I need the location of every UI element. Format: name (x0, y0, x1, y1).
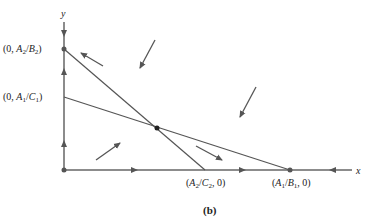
x-axis-arrow-right-icon (131, 167, 138, 173)
point-A1-B1-0 (288, 168, 293, 173)
phase-plane-diagram: y x (0, A2/B2) (0, A1/C1) (A2/C2, 0) (A1… (0, 0, 377, 222)
x-axis-arrow-right-mid-icon (239, 167, 246, 173)
origin-point (62, 168, 67, 173)
flow-arrow-lower-right (196, 146, 222, 160)
label-0-A1-C1: (0, A1/C1) (3, 91, 42, 104)
point-0-A2-B2 (62, 47, 67, 52)
label-A2-C2-0: (A2/C2, 0) (186, 177, 225, 190)
isocline-steep (64, 49, 205, 170)
figure-caption: (b) (203, 204, 217, 217)
flow-arrow-top (140, 40, 155, 68)
x-axis-label: x (355, 165, 361, 176)
y-axis-arrow-down-icon (61, 30, 67, 37)
y-axis-label: y (60, 8, 66, 19)
flow-arrow-right (240, 87, 256, 117)
equilibrium-point (155, 126, 160, 131)
flow-arrow-upper-left (81, 53, 103, 66)
flow-arrow-lower-left (96, 143, 120, 160)
y-axis-arrow-up-lower-icon (61, 140, 67, 147)
x-axis-arrow-left-icon (329, 167, 336, 173)
y-axis-arrow-up-icon (61, 68, 67, 75)
label-0-A2-B2: (0, A2/B2) (3, 43, 42, 56)
label-A1-B1-0: (A1/B1, 0) (272, 177, 311, 190)
